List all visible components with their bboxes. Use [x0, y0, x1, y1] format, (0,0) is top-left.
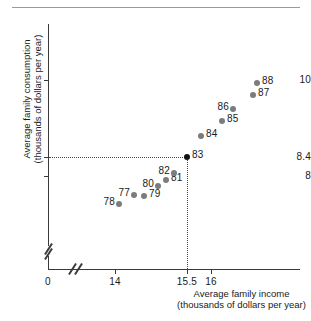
point-85-label: 85 — [227, 113, 239, 124]
y-axis-tick — [44, 80, 49, 81]
point-82-label: 82 — [155, 165, 170, 176]
point-78-label: 78 — [100, 196, 115, 207]
y-axis-title-line1: Average family consumption — [21, 39, 32, 158]
x-axis-title-line1: Average family income — [194, 288, 290, 299]
point-83-label: 83 — [192, 149, 204, 160]
x-axis-title-line2: (thousands of dollars per year) — [177, 299, 306, 310]
point-77-label: 77 — [115, 187, 130, 198]
x-axis-tick-label-0: 0 — [38, 276, 58, 287]
point-79-label: 79 — [149, 188, 161, 199]
point-87[interactable] — [250, 92, 256, 98]
point-83[interactable] — [184, 154, 190, 160]
point-82[interactable] — [171, 170, 177, 176]
point-79[interactable] — [141, 193, 147, 199]
point-88[interactable] — [254, 80, 260, 86]
point-80-label: 80 — [139, 178, 154, 189]
point-80[interactable] — [155, 183, 161, 189]
y-axis-title-line2: (thousands of dollars per year) — [32, 35, 43, 164]
point-88-label: 88 — [262, 75, 274, 86]
y-axis-tick-label-8-4: 8.4 — [267, 151, 311, 162]
point-87-label: 87 — [258, 87, 270, 98]
y-axis-tick-label-8: 8 — [267, 170, 311, 181]
point-86-label: 86 — [214, 101, 229, 112]
x-axis-tick — [187, 269, 188, 274]
point-84[interactable] — [198, 133, 204, 139]
x-axis-tick-label-16: 16 — [201, 276, 221, 287]
guide-line-horizontal-8-4 — [49, 157, 187, 158]
y-axis-line-lower-segment — [48, 256, 49, 270]
point-78[interactable] — [116, 201, 122, 207]
x-axis-title: Average family income (thousands of doll… — [172, 288, 311, 310]
x-axis-tick — [211, 269, 212, 274]
x-axis-tick-label-14: 14 — [105, 276, 125, 287]
point-81[interactable] — [163, 177, 169, 183]
point-84-label: 84 — [206, 128, 218, 139]
y-axis-title: Average family consumption (thousands of… — [21, 23, 43, 175]
point-77[interactable] — [131, 192, 137, 198]
point-86[interactable] — [230, 106, 236, 112]
x-axis-line — [48, 269, 300, 270]
x-axis-tick — [115, 269, 116, 274]
point-85[interactable] — [219, 118, 225, 124]
y-axis-tick — [44, 176, 49, 177]
x-axis-tick-label-15-5: 15.5 — [173, 276, 201, 287]
guide-line-vertical-15-5 — [187, 157, 188, 269]
y-axis-line — [48, 24, 49, 246]
top-rule-divider — [12, 7, 300, 8]
scatter-chart-figure: 10 8.4 8 0 14 15.5 16 787779808182838485… — [0, 0, 311, 321]
